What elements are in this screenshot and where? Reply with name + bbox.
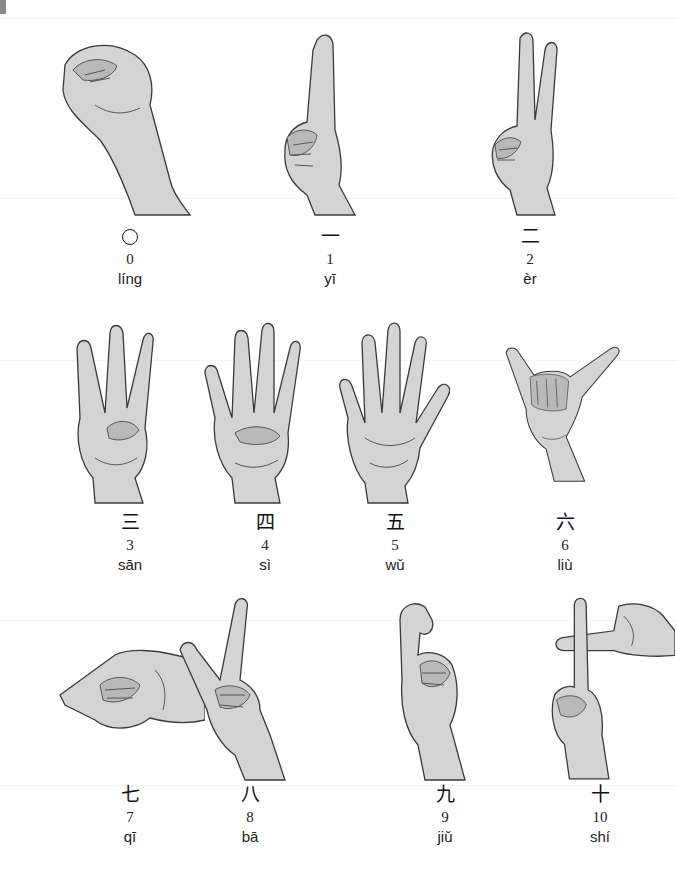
hand-gesture-eight-icon — [175, 595, 325, 785]
pinyin-label: yī — [255, 271, 405, 286]
number-labels: 一 1 yī — [255, 227, 405, 286]
pinyin-label: liù — [490, 557, 640, 572]
hanzi-label: 五 — [320, 513, 470, 535]
number-labels: 三 3 sān — [55, 513, 205, 572]
hand-gesture-two-icon — [455, 30, 605, 220]
number-labels: 九 9 jiǔ — [370, 785, 520, 844]
hanzi-label: 四 — [190, 513, 340, 535]
pinyin-label: jiǔ — [370, 829, 520, 844]
number-labels: 二 2 èr — [455, 227, 605, 286]
hand-gesture-zero-icon — [55, 30, 205, 220]
digit-label: 1 — [255, 252, 405, 267]
hanzi-label: 六 — [490, 513, 640, 535]
digit-label: 4 — [190, 538, 340, 553]
digit-label: 5 — [320, 538, 470, 553]
pinyin-label: líng — [55, 271, 205, 286]
pinyin-label: wǔ — [320, 557, 470, 572]
zero-circle-glyph — [122, 229, 138, 245]
hand-gesture-four-icon — [190, 318, 340, 508]
digit-label: 8 — [175, 810, 325, 825]
number-labels: 四 4 sì — [190, 513, 340, 572]
hand-gesture-nine-icon — [370, 595, 520, 785]
number-labels: 十 10 shí — [525, 785, 675, 844]
hand-gesture-one-icon — [255, 30, 405, 220]
pinyin-label: èr — [455, 271, 605, 286]
bleed-through-line — [0, 18, 677, 19]
number-labels: 六 6 liù — [490, 513, 640, 572]
digit-label: 3 — [55, 538, 205, 553]
hanzi-label: 八 — [175, 785, 325, 807]
pinyin-label: sān — [55, 557, 205, 572]
digit-label: 6 — [490, 538, 640, 553]
hand-gesture-three-icon — [55, 318, 205, 508]
page-corner-tab — [0, 0, 6, 14]
pinyin-label: sì — [190, 557, 340, 572]
pinyin-label: bā — [175, 829, 325, 844]
hanzi-label: 十 — [525, 785, 675, 807]
number-labels: 五 5 wǔ — [320, 513, 470, 572]
digit-label: 9 — [370, 810, 520, 825]
hand-gesture-six-icon — [490, 318, 640, 508]
number-labels: 八 8 bā — [175, 785, 325, 844]
hanzi-label: 九 — [370, 785, 520, 807]
hanzi-label: 一 — [255, 227, 405, 249]
hand-gesture-five-icon — [320, 318, 470, 508]
hanzi-label — [55, 227, 205, 249]
digit-label: 2 — [455, 252, 605, 267]
hanzi-label: 二 — [455, 227, 605, 249]
hanzi-label: 三 — [55, 513, 205, 535]
pinyin-label: shí — [525, 829, 675, 844]
number-labels: 0 líng — [55, 227, 205, 286]
hand-gesture-ten-icon — [525, 595, 675, 785]
digit-label: 0 — [55, 252, 205, 267]
digit-label: 10 — [525, 810, 675, 825]
